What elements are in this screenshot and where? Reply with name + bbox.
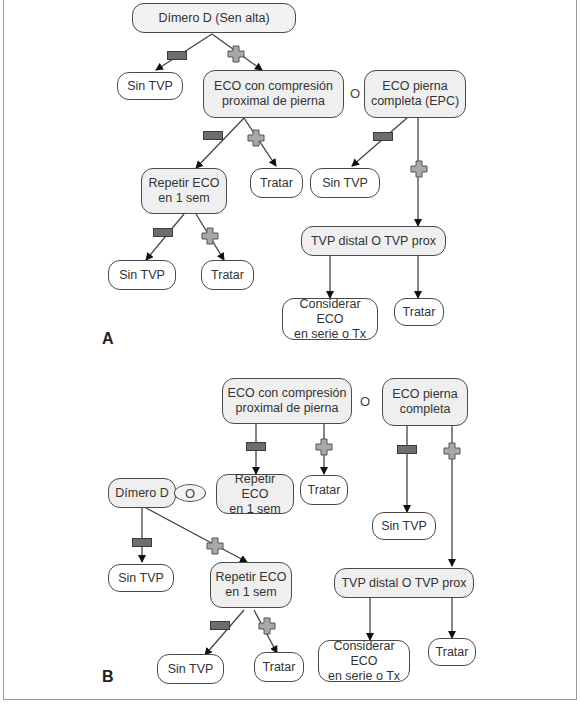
node-eco-compresion-proximal: ECO con compresión proximal de pierna: [222, 378, 352, 424]
node-label: Tratar: [260, 176, 293, 191]
node-tratar: Tratar: [394, 298, 444, 326]
minus-icon: [167, 51, 187, 60]
node-eco-pierna-completa: ECO pierna completa (EPC): [364, 70, 466, 118]
node-dimero-d: Dímero D: [108, 478, 176, 508]
node-sin-tvp: Sin TVP: [108, 260, 176, 290]
node-repetir-eco: Repetir ECO en 1 sem: [141, 168, 227, 214]
panel-label-a: A: [102, 330, 114, 348]
node-label: Tratar: [436, 645, 469, 660]
node-label: ECO con compresión proximal de pierna: [214, 79, 333, 109]
node-label: Sin TVP: [322, 176, 368, 191]
panel-label-b: B: [102, 668, 114, 686]
node-sin-tvp: Sin TVP: [108, 564, 174, 592]
minus-icon: [153, 228, 173, 237]
node-label: Considerar ECO en serie o Tx: [323, 639, 405, 684]
node-sin-tvp: Sin TVP: [117, 72, 183, 100]
node-label: Repetir ECO en 1 sem: [221, 472, 289, 517]
node-label: Considerar ECO en serie o Tx: [287, 297, 373, 342]
node-eco-compresion-proximal: ECO con compresión proximal de pierna: [203, 70, 344, 118]
node-label: Repetir ECO en 1 sem: [149, 176, 220, 206]
minus-icon: [132, 538, 152, 547]
node-label: Dímero D: [115, 486, 168, 501]
node-repetir-eco: Repetir ECO en 1 sem: [216, 474, 294, 514]
node-label: Tratar: [211, 268, 244, 283]
node-label: ECO con compresión proximal de pierna: [228, 386, 347, 416]
node-label: ECO pierna completa (EPC): [371, 79, 459, 109]
node-label: Tratar: [403, 305, 436, 320]
node-label: Tratar: [308, 483, 341, 498]
minus-icon: [203, 131, 223, 140]
plus-icon: [201, 227, 219, 245]
node-label: TVP distal O TVP prox: [311, 234, 436, 249]
node-tratar: Tratar: [201, 260, 254, 290]
minus-icon: [397, 445, 417, 454]
node-label: Sin TVP: [381, 519, 427, 534]
node-tvp-distal-o-prox: TVP distal O TVP prox: [334, 568, 474, 598]
node-label: Repetir ECO en 1 sem: [216, 570, 287, 600]
node-tratar: Tratar: [300, 475, 348, 505]
node-considerar-eco: Considerar ECO en serie o Tx: [318, 640, 410, 682]
node-repetir-eco: Repetir ECO en 1 sem: [210, 562, 292, 608]
node-tvp-distal-o-prox: TVP distal O TVP prox: [301, 226, 446, 256]
minus-icon: [210, 621, 230, 630]
node-dimero-d-sen-alta: Dímero D (Sen alta): [132, 3, 296, 33]
node-considerar-eco: Considerar ECO en serie o Tx: [282, 298, 378, 340]
node-label: Sin TVP: [127, 79, 173, 94]
node-eco-pierna-completa: ECO pierna completa: [382, 378, 468, 426]
plus-icon: [315, 438, 333, 456]
node-label: Sin TVP: [118, 571, 164, 586]
node-label: ECO pierna completa: [392, 387, 457, 417]
node-label: Dímero D (Sen alta): [158, 11, 269, 26]
or-connector: O: [350, 86, 360, 101]
node-label: TVP distal O TVP prox: [341, 576, 466, 591]
plus-icon: [206, 537, 224, 555]
minus-icon: [373, 132, 393, 141]
node-tratar: Tratar: [254, 652, 304, 682]
node-label: Sin TVP: [119, 268, 165, 283]
node-tratar: Tratar: [428, 638, 476, 666]
node-tratar: Tratar: [250, 168, 303, 198]
or-connector: O: [174, 484, 206, 502]
plus-icon: [410, 160, 428, 178]
node-sin-tvp: Sin TVP: [157, 654, 224, 684]
node-label: Tratar: [263, 660, 296, 675]
plus-icon: [247, 129, 265, 147]
plus-icon: [227, 45, 245, 63]
node-sin-tvp: Sin TVP: [372, 512, 436, 540]
or-connector: O: [360, 394, 370, 409]
node-sin-tvp: Sin TVP: [310, 168, 380, 198]
plus-icon: [443, 442, 461, 460]
node-label: Sin TVP: [168, 662, 214, 677]
minus-icon: [246, 442, 266, 451]
plus-icon: [258, 617, 276, 635]
